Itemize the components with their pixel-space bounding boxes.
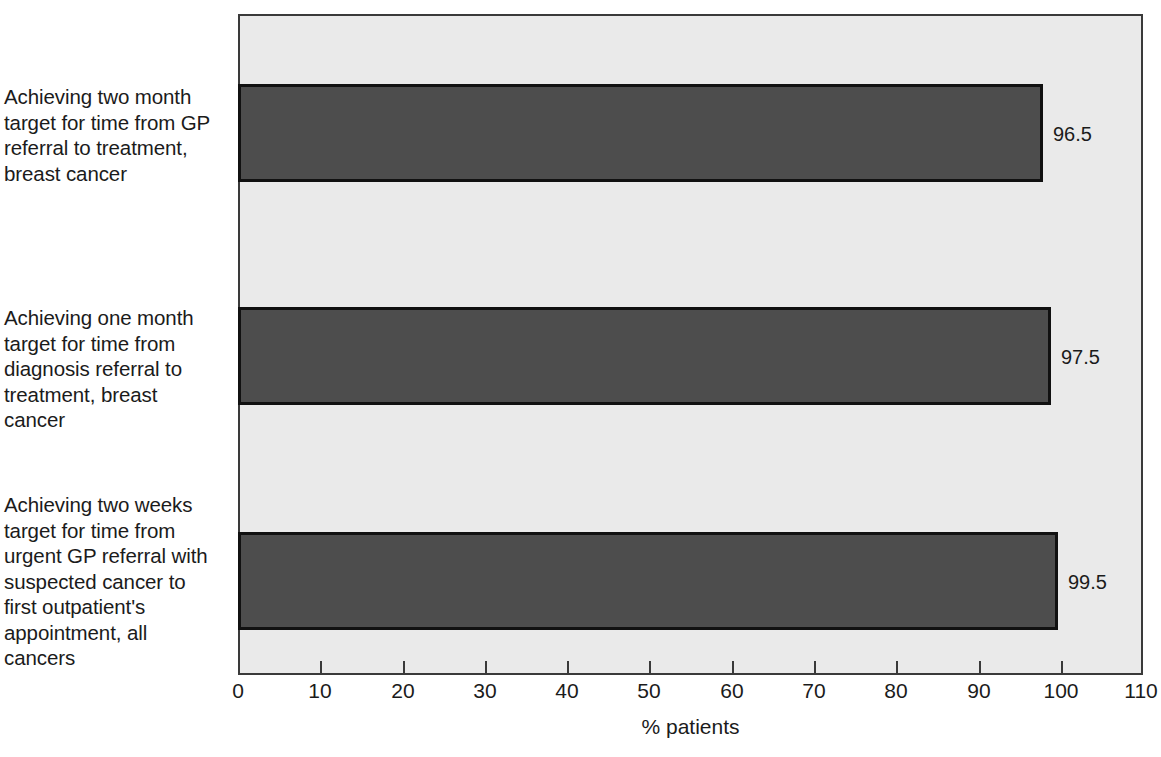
x-tick-label: 60	[720, 679, 743, 703]
x-tick-label: 70	[802, 679, 825, 703]
x-axis-title: % patients	[238, 715, 1143, 739]
x-tick-label: 80	[884, 679, 907, 703]
bar-one-month-target	[238, 307, 1051, 405]
tick-mark	[485, 661, 487, 675]
tick-mark	[1061, 661, 1063, 675]
tick-mark	[732, 661, 734, 675]
bar-two-month-target	[238, 84, 1043, 182]
plot-area: 96.5 97.5 99.5	[238, 14, 1143, 675]
category-label-two-month-target: Achieving two month target for time from…	[4, 84, 232, 186]
tick-mark	[896, 661, 898, 675]
tick-mark	[320, 661, 322, 675]
x-tick-label: 50	[637, 679, 660, 703]
x-tick-label: 100	[1043, 679, 1078, 703]
x-tick-label: 30	[473, 679, 496, 703]
bar-value-two-weeks-target: 99.5	[1068, 572, 1107, 592]
tick-mark	[649, 661, 651, 675]
x-tick-label: 40	[555, 679, 578, 703]
x-tick-label: 0	[232, 679, 244, 703]
x-tick-label: 20	[391, 679, 414, 703]
tick-mark	[814, 661, 816, 675]
bar-value-two-month-target: 96.5	[1053, 124, 1092, 144]
tick-mark	[403, 661, 405, 675]
x-axis: 0 10 20 30 40 50 60 70 80 90 100 110 % p…	[238, 675, 1143, 755]
tick-mark	[238, 661, 240, 675]
x-tick-label: 10	[308, 679, 331, 703]
category-label-two-weeks-target: Achieving two weeks target for time from…	[4, 492, 232, 671]
x-tick-label: 90	[967, 679, 990, 703]
bar-chart: Achieving two month target for time from…	[0, 0, 1161, 757]
bar-two-weeks-target	[238, 532, 1058, 630]
category-label-one-month-target: Achieving one month target for time from…	[4, 305, 232, 433]
x-tick-label: 110	[1124, 679, 1157, 703]
bar-value-one-month-target: 97.5	[1061, 347, 1100, 367]
tick-mark	[979, 661, 981, 675]
tick-mark	[567, 661, 569, 675]
